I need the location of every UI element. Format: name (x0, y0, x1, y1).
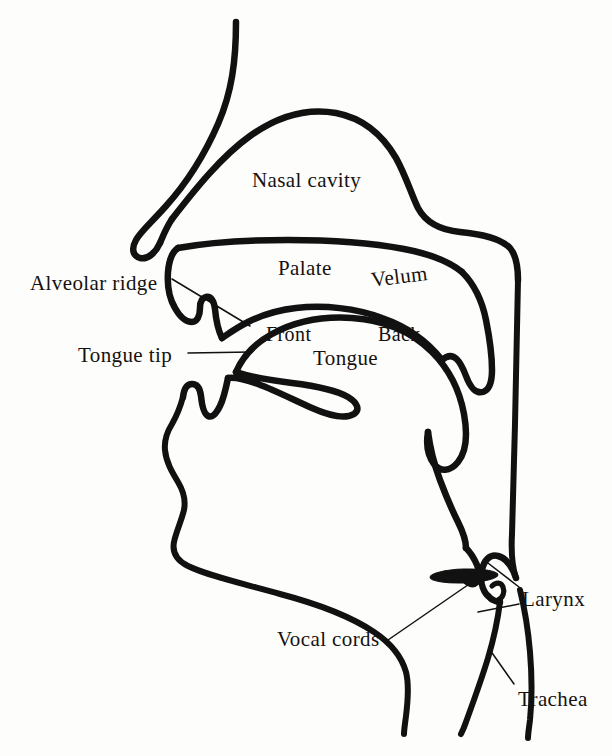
label-palate: Palate (278, 258, 332, 279)
trachea-leader-line (490, 650, 514, 684)
label-larynx: Larynx (522, 589, 585, 610)
label-nasal-cavity: Nasal cavity (252, 170, 361, 191)
label-vocal-cords: Vocal cords (277, 629, 380, 650)
tongue-root-outline (428, 432, 466, 548)
vocal-tract-diagram: Nasal cavity Alveolar ridge Palate Velum… (0, 0, 612, 756)
nose-profile-outline (133, 22, 236, 258)
trachea-front-wall (461, 602, 500, 734)
chin-jaw-neck-outline (165, 397, 408, 734)
label-front: Front (266, 324, 311, 344)
pharynx-back-wall (512, 280, 518, 578)
label-trachea: Trachea (518, 689, 588, 710)
vocal-cords-leader-line (388, 578, 478, 640)
trachea-back-wall (520, 590, 532, 738)
label-tongue-tip: Tongue tip (78, 345, 172, 366)
vocal-cords-shape (430, 568, 498, 584)
label-alveolar-ridge: Alveolar ridge (30, 273, 157, 294)
tongue-tip-leader-line (188, 352, 252, 353)
lower-teeth-outline (183, 378, 228, 417)
label-back: Back (378, 324, 421, 344)
label-tongue: Tongue (313, 348, 378, 369)
lower-lip-teeth-outline (228, 372, 357, 416)
nasal-cavity-roof (172, 112, 518, 280)
arytenoid-nub-outline (489, 583, 504, 601)
nostril-outline (160, 219, 172, 243)
